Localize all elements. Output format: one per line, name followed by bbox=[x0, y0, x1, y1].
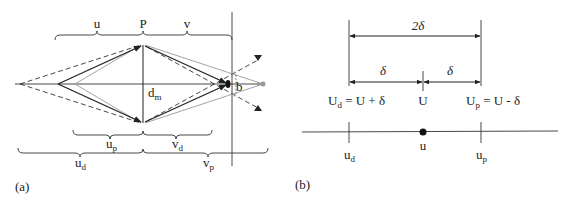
panel-a: u P v dm b up vd ud vp (a) bbox=[15, 12, 268, 194]
label-v: v bbox=[184, 16, 191, 31]
label-dm: dm bbox=[148, 85, 162, 102]
label-u: u bbox=[94, 16, 101, 31]
label-delta-right: δ bbox=[447, 63, 454, 78]
panel-b-tag: (b) bbox=[295, 177, 310, 192]
label-b: b bbox=[236, 79, 243, 94]
label-vd: vd bbox=[172, 136, 184, 153]
label-U: U bbox=[418, 93, 428, 108]
position-axis bbox=[302, 131, 558, 132]
label-P: P bbox=[139, 16, 146, 31]
triangle-up-marker bbox=[254, 105, 262, 111]
label-Up-equation: Up = U - δ bbox=[466, 93, 520, 110]
figure-canvas: u P v dm b up vd ud vp (a) 2δ δ δ Ud = U… bbox=[0, 0, 568, 203]
label-u-point: u bbox=[420, 138, 427, 153]
brace-top bbox=[55, 31, 232, 40]
label-two-delta: 2δ bbox=[412, 18, 426, 33]
brace-ud-vp bbox=[18, 148, 268, 157]
label-delta-left: δ bbox=[380, 63, 387, 78]
label-up: up bbox=[106, 136, 118, 153]
gray-image-point bbox=[261, 82, 266, 87]
focused-image-point bbox=[226, 80, 231, 88]
label-Ud-equation: Ud = U + δ bbox=[328, 93, 385, 110]
label-ud: ud bbox=[75, 155, 87, 172]
panel-a-tag: (a) bbox=[15, 179, 29, 194]
panel-b: 2δ δ δ Ud = U + δ U Up = U - δ u ud up (… bbox=[295, 18, 558, 192]
triangle-down-marker bbox=[254, 55, 262, 61]
label-up-point: up bbox=[476, 147, 488, 164]
u-point-dot bbox=[420, 129, 427, 136]
label-vp: vp bbox=[203, 155, 215, 172]
label-ud-point: ud bbox=[344, 147, 356, 164]
brace-up-vd bbox=[73, 130, 212, 139]
